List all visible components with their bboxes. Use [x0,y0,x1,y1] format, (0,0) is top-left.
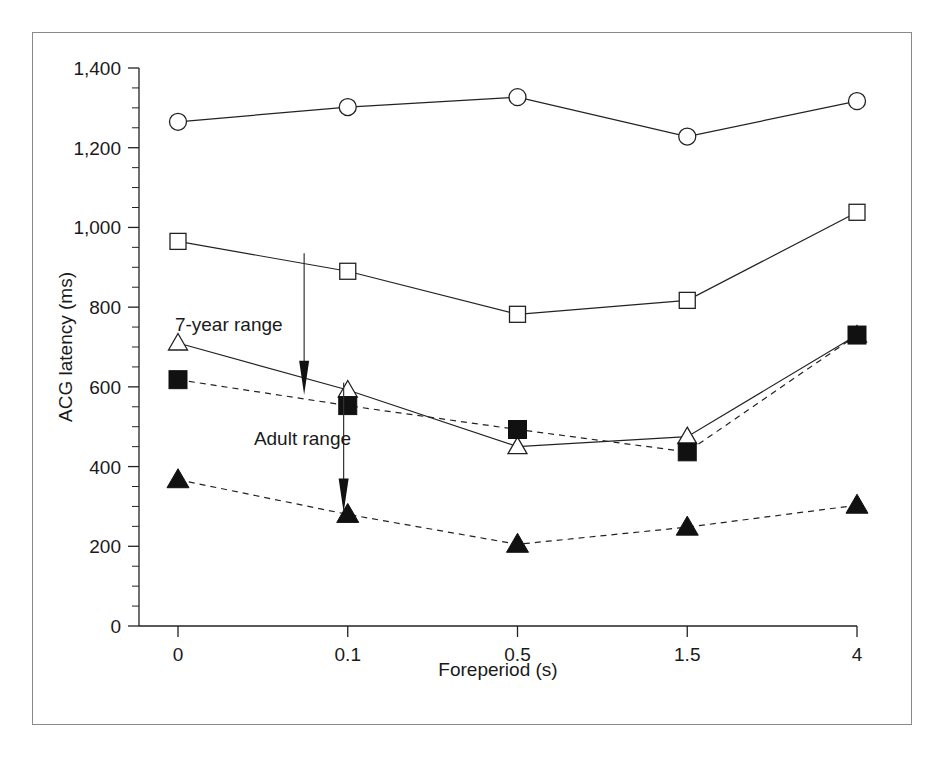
series-line [178,212,857,314]
data-point-marker-open-triangle [678,427,697,444]
x-ticks-group [178,626,857,637]
data-point-marker-filled-triangle [846,494,868,513]
data-point-marker-filled-square [509,421,527,439]
data-point-marker-filled-triangle [167,469,189,488]
data-point-marker-filled-square [169,371,187,389]
y-axis-title: ACG latency (ms) [55,272,76,422]
data-point-marker-open-circle [170,113,187,130]
data-point-marker-open-square [340,263,356,279]
y-tick-label: 0 [110,616,121,637]
data-point-marker-filled-square [339,397,357,415]
axes-group [139,68,857,626]
x-tick-label: 0 [173,644,184,665]
data-point-marker-open-circle [339,99,356,116]
data-point-marker-open-triangle [508,437,527,454]
data-point-marker-open-square [849,204,865,220]
data-point-marker-filled-triangle [676,516,698,535]
annotation-label: Adult range [254,428,351,449]
data-point-marker-open-square [679,292,695,308]
series-filled-triangle-series [167,469,868,553]
data-point-marker-filled-triangle [507,533,529,552]
y-tick-label: 400 [89,457,121,478]
data-point-marker-open-circle [509,89,526,106]
x-tick-label: 0.1 [335,644,361,665]
line-chart: 02004006008001,0001,2001,400 00.10.51.54… [0,0,939,762]
data-point-marker-open-square [510,306,526,322]
y-tick-label: 200 [89,536,121,557]
y-tick-label: 1,000 [73,217,121,238]
annotation-label: 7-year range [175,314,283,335]
y-tick-label: 800 [89,297,121,318]
annotation-arrow-head [299,361,309,395]
data-point-marker-open-circle [849,93,866,110]
annotation-adult-range: Adult range [254,383,351,513]
y-ticks-group [128,68,139,626]
y-tick-label: 1,400 [73,58,121,79]
data-point-marker-filled-square [678,443,696,461]
y-tick-label: 1,200 [73,138,121,159]
series-open-square-series [170,204,865,322]
x-tick-label: 4 [852,644,863,665]
y-tick-label: 600 [89,377,121,398]
data-point-marker-open-circle [679,128,696,145]
x-tick-label: 1.5 [674,644,700,665]
figure-root: 02004006008001,0001,2001,400 00.10.51.54… [0,0,939,762]
data-point-marker-open-square [170,233,186,249]
data-point-marker-filled-square [848,326,866,344]
y-tick-labels-group: 02004006008001,0001,2001,400 [73,58,121,637]
data-point-marker-open-triangle [169,334,188,351]
x-axis-title: Foreperiod (s) [438,659,557,680]
series-open-circle-series [170,89,866,145]
